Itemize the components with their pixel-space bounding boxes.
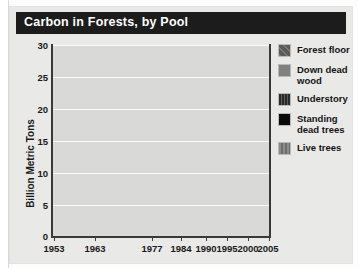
- gridline-20: [52, 109, 270, 110]
- y-tick-15: 15: [37, 136, 48, 147]
- gridline-15: [52, 141, 270, 142]
- y-tick-0: 0: [43, 231, 48, 242]
- legend-swatch-forest-floor-icon: [278, 44, 291, 57]
- gridline-10: [52, 173, 270, 174]
- gridline-30: [52, 45, 270, 46]
- y-axis-title: Billion Metric Tons: [25, 104, 36, 224]
- legend-swatch-live-trees-icon: [278, 142, 291, 155]
- chart-screenshot: Carbon in Forests, by Pool: [0, 0, 359, 268]
- y-tick-30: 30: [37, 40, 48, 51]
- legend-swatch-understory-icon: [278, 93, 291, 106]
- legend-swatch-down-dead-wood-icon: [278, 64, 291, 77]
- y-tick-25: 25: [37, 72, 48, 83]
- gridline-25: [52, 77, 270, 78]
- y-tick-10: 10: [37, 168, 48, 179]
- x-tick-label-1963: 1963: [84, 243, 105, 254]
- legend-label-forest-floor: Forest floor: [297, 44, 350, 55]
- x-tick-label-1953: 1953: [43, 243, 64, 254]
- y-axis-title-holder: Billion Metric Tons: [14, 60, 34, 200]
- x-tick-label-2005: 2005: [257, 243, 278, 254]
- plot-right-border: [269, 44, 271, 238]
- x-axis-line: [51, 236, 271, 238]
- x-tick-1963: [95, 236, 96, 241]
- x-tick-label-1990: 1990: [195, 243, 216, 254]
- x-tick-label-1995: 1995: [216, 243, 237, 254]
- x-tick-2005: [269, 236, 270, 241]
- gridline-5: [52, 205, 270, 206]
- x-tick-label-2000: 2000: [237, 243, 258, 254]
- x-tick-1953: [54, 236, 55, 241]
- legend-item-forest-floor: Forest floor: [278, 44, 356, 57]
- legend-item-live-trees: Live trees: [278, 142, 356, 155]
- x-tick-1990: [206, 236, 207, 241]
- x-tick-1977: [152, 236, 153, 241]
- legend-swatch-standing-dead-trees-icon: [278, 113, 291, 126]
- y-axis-line: [51, 44, 53, 238]
- legend-item-understory: Understory: [278, 93, 356, 106]
- page-title: Carbon in Forests, by Pool: [24, 15, 188, 29]
- legend-label-live-trees: Live trees: [297, 142, 341, 153]
- y-tick-5: 5: [43, 200, 48, 211]
- x-tick-1984: [181, 236, 182, 241]
- page-left-margin: [0, 0, 9, 268]
- chart-title-bar: Carbon in Forests, by Pool: [16, 12, 346, 34]
- chart-legend: Forest floor Down dead wood Understory S…: [278, 44, 356, 162]
- legend-label-understory: Understory: [297, 93, 348, 104]
- x-tick-1995: [227, 236, 228, 241]
- y-tick-20: 20: [37, 104, 48, 115]
- x-tick-label-1984: 1984: [170, 243, 191, 254]
- plot-area: [52, 45, 270, 237]
- x-tick-label-1977: 1977: [141, 243, 162, 254]
- legend-label-standing-dead-trees: Standing dead trees: [297, 113, 355, 135]
- legend-item-down-dead-wood: Down dead wood: [278, 64, 356, 86]
- legend-label-down-dead-wood: Down dead wood: [297, 64, 355, 86]
- x-tick-2000: [248, 236, 249, 241]
- legend-item-standing-dead-trees: Standing dead trees: [278, 113, 356, 135]
